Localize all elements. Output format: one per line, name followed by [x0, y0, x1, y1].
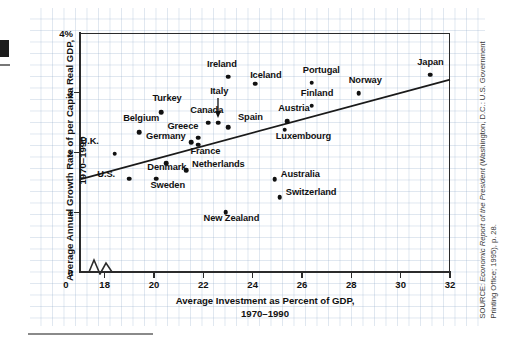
data-label-switzerland: Switzerland	[286, 187, 337, 197]
y-axis-title: Average Annual Growth Rate of per Capita…	[64, 36, 89, 286]
x-tick-label-20: 20	[149, 279, 160, 290]
data-label-portugal: Portugal	[303, 65, 340, 75]
data-point-switzerland	[278, 195, 283, 200]
source-title: Economic Report of the President	[478, 168, 487, 282]
page-edge-tab-mark	[0, 40, 9, 57]
data-label-spain: Spain	[238, 112, 263, 122]
data-point-greece	[196, 135, 201, 140]
x-tick-24	[252, 272, 253, 278]
chart-page: 1820222426283032 01234% 0 U.K.U.S.Belgiu…	[0, 0, 513, 343]
x-tick-label-22: 22	[198, 279, 209, 290]
data-point-ireland	[226, 74, 231, 79]
y-axis-title-line1: Average Annual Growth Rate of per Capita…	[64, 36, 77, 286]
data-point-netherlands	[184, 168, 189, 173]
data-point-u-s	[127, 176, 132, 181]
page-bottom-rule	[28, 333, 153, 335]
data-label-japan: Japan	[417, 57, 443, 67]
x-tick-label-18: 18	[99, 279, 110, 290]
data-point-norway	[356, 91, 361, 96]
x-tick-20	[153, 272, 154, 278]
data-label-austria: Austria	[278, 103, 309, 113]
data-point-spain	[226, 125, 231, 130]
data-label-australia: Australia	[281, 169, 320, 179]
x-tick-label-24: 24	[247, 279, 258, 290]
x-axis-title-line1: Average Investment as Percent of GDP,	[80, 295, 450, 308]
data-label-germany: Germany	[146, 131, 186, 141]
x-tick-label-30: 30	[395, 279, 406, 290]
data-point-canada	[206, 120, 211, 125]
data-label-ireland: Ireland	[207, 59, 237, 69]
data-label-belgium: Belgium	[123, 113, 159, 123]
x-tick-26	[301, 272, 302, 278]
x-tick-label-32: 32	[445, 279, 456, 290]
data-label-sweden: Sweden	[150, 180, 185, 190]
data-label-finland: Finland	[301, 88, 333, 98]
data-label-iceland: Iceland	[250, 70, 281, 80]
x-tick-30	[400, 272, 401, 278]
x-tick-32	[449, 272, 450, 278]
data-point-germany	[189, 140, 194, 145]
page-edge-rule	[0, 64, 10, 66]
x-axis-title: Average Investment as Percent of GDP, 19…	[80, 295, 450, 320]
data-point-iceland	[253, 81, 258, 86]
data-point-turkey	[159, 110, 164, 115]
x-tick-18	[104, 272, 105, 278]
data-label-turkey: Turkey	[152, 93, 181, 103]
source-note-wrapper: SOURCE: Economic Report of the President…	[468, 22, 508, 322]
data-label-greece: Greece	[167, 121, 198, 131]
data-label-netherlands: Netherlands	[192, 159, 245, 169]
x-tick-28	[351, 272, 352, 278]
data-point-austria	[285, 119, 290, 124]
x-axis-title-line2: 1970–1990	[80, 308, 450, 321]
source-note: SOURCE: Economic Report of the President…	[478, 17, 499, 319]
data-point-u-k	[112, 151, 117, 156]
data-point-portugal	[310, 80, 315, 85]
y-axis-title-wrapper: Average Annual Growth Rate of per Capita…	[30, 20, 70, 270]
x-tick-label-28: 28	[346, 279, 357, 290]
data-label-norway: Norway	[349, 75, 382, 85]
x-tick-label-26: 26	[297, 279, 308, 290]
data-point-japan	[428, 73, 433, 78]
data-label-new-zealand: New Zealand	[204, 213, 260, 223]
data-point-australia	[273, 177, 278, 182]
data-point-belgium	[137, 130, 142, 135]
data-label-u-s: U.S.	[97, 169, 115, 179]
data-label-luxembourg: Luxembourg	[276, 131, 331, 141]
source-prefix: SOURCE:	[478, 282, 487, 319]
x-tick-22	[203, 272, 204, 278]
data-point-finland	[310, 104, 315, 109]
data-point-italy	[216, 120, 221, 125]
data-label-france: France	[190, 146, 220, 156]
italy-leader-arrow-icon	[213, 97, 223, 119]
data-label-denmark: Denmark	[147, 162, 186, 172]
y-axis-title-line2: 1970–1990	[76, 36, 89, 286]
data-label-italy: Italy	[210, 86, 228, 96]
